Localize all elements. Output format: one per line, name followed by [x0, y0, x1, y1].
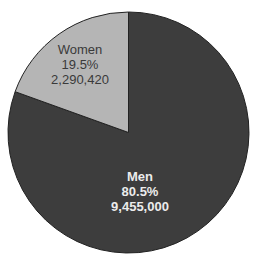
- women-slice-label: Women 19.5% 2,290,420: [51, 42, 109, 87]
- women-label-value: 2,290,420: [51, 72, 109, 87]
- pie-chart: [0, 0, 258, 262]
- men-label-value: 9,455,000: [111, 199, 169, 214]
- pie-slices: [8, 12, 249, 253]
- women-label-name: Women: [51, 42, 109, 57]
- men-label-percent: 80.5%: [111, 184, 169, 199]
- women-label-percent: 19.5%: [51, 57, 109, 72]
- men-label-name: Men: [111, 169, 169, 184]
- men-slice-label: Men 80.5% 9,455,000: [111, 169, 169, 214]
